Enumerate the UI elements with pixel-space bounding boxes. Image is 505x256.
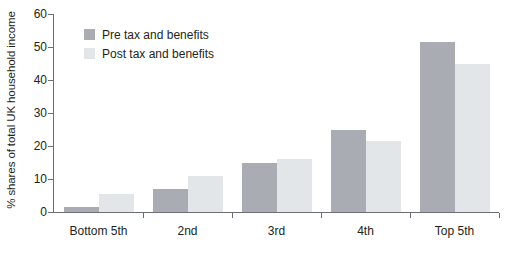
y-axis-title: % shares of total UK household income (2, 2, 20, 218)
y-axis-tick-label: 0 (21, 206, 47, 218)
bar-chart: % shares of total UK household income 01… (0, 0, 505, 256)
bar-pre-tax (153, 189, 188, 212)
bar-post-tax (99, 194, 134, 212)
y-axis-tick-label: 10 (21, 173, 47, 185)
bar-post-tax (366, 141, 401, 212)
y-axis-tick-mark (48, 47, 53, 48)
x-axis-category-label: Top 5th (410, 224, 499, 238)
y-axis-tick-label: 20 (21, 140, 47, 152)
y-axis-tick-mark (48, 212, 53, 213)
bar-pre-tax (331, 130, 366, 213)
y-axis-tick-label: 60 (21, 8, 47, 20)
bar-pre-tax (242, 163, 277, 213)
bar-group (331, 14, 401, 212)
legend-label: Post tax and benefits (102, 47, 214, 61)
x-axis-category-label: 4th (321, 224, 410, 238)
y-axis-tick-label: 30 (21, 107, 47, 119)
x-axis-line (53, 212, 499, 213)
y-axis-tick-mark (48, 113, 53, 114)
legend-swatch-icon (84, 29, 95, 40)
x-axis-tick-mark (232, 213, 233, 218)
bar-post-tax (188, 176, 223, 212)
legend-item: Pre tax and benefits (84, 25, 274, 44)
x-axis-category-label: Bottom 5th (54, 224, 143, 238)
y-axis-tick-labels: 0102030405060 (21, 0, 47, 256)
y-axis-tick-mark (48, 14, 53, 15)
bar-group (420, 14, 490, 212)
x-axis-category-label: 3rd (232, 224, 321, 238)
bar-pre-tax (64, 207, 99, 212)
x-axis-tick-mark (143, 213, 144, 218)
x-axis-tick-mark (410, 213, 411, 218)
y-axis-tick-label: 50 (21, 41, 47, 53)
x-axis-category-label: 2nd (143, 224, 232, 238)
bar-pre-tax (420, 42, 455, 212)
legend-label: Pre tax and benefits (102, 28, 209, 42)
y-axis-tick-mark (48, 146, 53, 147)
legend-swatch-icon (84, 48, 95, 59)
bar-post-tax (277, 159, 312, 212)
legend-item: Post tax and benefits (84, 44, 274, 63)
chart-legend: Pre tax and benefitsPost tax and benefit… (84, 25, 274, 63)
x-axis-tick-mark (499, 213, 500, 218)
y-axis-tick-mark (48, 80, 53, 81)
x-axis-tick-mark (321, 213, 322, 218)
y-axis-tick-mark (48, 179, 53, 180)
y-axis-tick-label: 40 (21, 74, 47, 86)
bar-post-tax (455, 64, 490, 213)
